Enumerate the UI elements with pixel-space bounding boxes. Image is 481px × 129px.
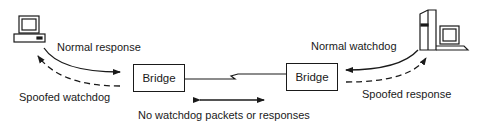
tower-computer-icon (420, 10, 468, 50)
no-watchdog-label: No watchdog packets or responses (138, 110, 310, 121)
left-bridge: Bridge (133, 64, 185, 92)
normal-watchdog-arrow (346, 50, 418, 70)
left-bridge-label: Bridge (142, 72, 175, 84)
right-bridge: Bridge (286, 63, 338, 91)
normal-watchdog-label: Normal watchdog (311, 41, 397, 52)
normal-response-label: Normal response (57, 42, 141, 53)
spoofed-watchdog-arrow (38, 56, 120, 86)
spoofed-response-label: Spoofed response (362, 89, 451, 100)
spoofed-watchdog-label: Spoofed watchdog (19, 92, 110, 103)
wan-link (185, 74, 286, 79)
right-bridge-label: Bridge (295, 71, 328, 83)
desktop-computer-icon (14, 16, 45, 42)
